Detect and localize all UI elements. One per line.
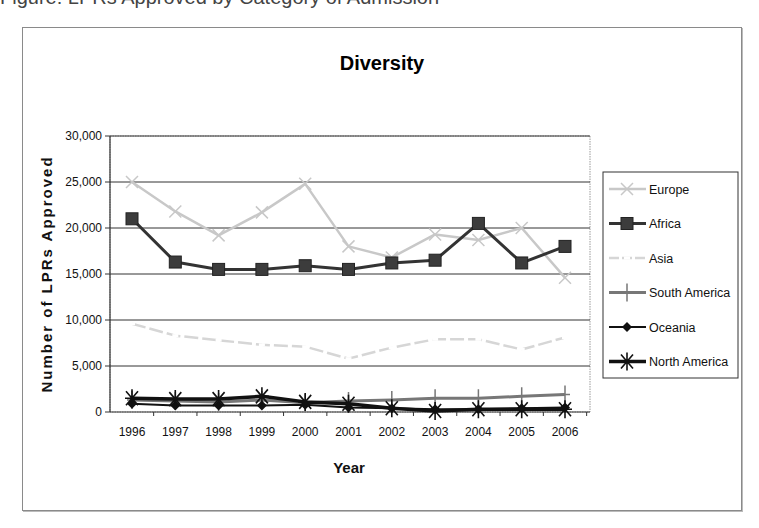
x-tick-label: 2001 <box>335 425 362 439</box>
y-axis-title: Number of LPRs Approved <box>38 155 55 392</box>
legend-label: Europe <box>649 183 689 197</box>
chart-title: Diversity <box>340 52 425 74</box>
x-tick-label: 2004 <box>465 425 492 439</box>
y-tick-label: 15,000 <box>65 267 102 281</box>
legend: EuropeAfricaAsiaSouth AmericaOceaniaNort… <box>603 172 738 378</box>
x-tick-label: 1998 <box>205 425 232 439</box>
y-axis-ticks: 05,00010,00015,00020,00025,00030,000 <box>65 129 110 419</box>
line-chart: Diversity 05,00010,00015,00020,00025,000… <box>0 0 759 528</box>
legend-item: South America <box>609 284 730 302</box>
x-tick-label: 2000 <box>292 425 319 439</box>
x-tick-label: 1997 <box>162 425 189 439</box>
x-tick-label: 2006 <box>552 425 579 439</box>
y-tick-label: 0 <box>95 405 102 419</box>
legend-label: Oceania <box>649 321 696 335</box>
x-tick-label: 2002 <box>378 425 405 439</box>
y-tick-label: 20,000 <box>65 221 102 235</box>
y-tick-label: 30,000 <box>65 129 102 143</box>
x-tick-label: 2003 <box>422 425 449 439</box>
x-tick-label: 1996 <box>119 425 146 439</box>
y-tick-label: 25,000 <box>65 175 102 189</box>
legend-label: Asia <box>649 252 673 266</box>
x-axis-title: Year <box>333 459 365 476</box>
legend-item: North America <box>609 353 728 371</box>
y-tick-label: 5,000 <box>72 359 102 373</box>
legend-label: South America <box>649 286 730 300</box>
y-tick-label: 10,000 <box>65 313 102 327</box>
legend-label: North America <box>649 355 728 369</box>
x-tick-label: 1999 <box>249 425 276 439</box>
x-tick-label: 2005 <box>508 425 535 439</box>
legend-label: Africa <box>649 217 681 231</box>
